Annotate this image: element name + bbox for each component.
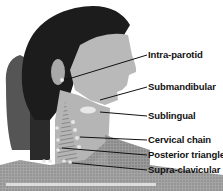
illegible-caption-line: [6, 182, 156, 187]
label-intra-parotid: Intra-parotid: [148, 49, 203, 60]
label-submandibular: Submandibular: [148, 81, 216, 92]
figure-caption: [6, 181, 156, 188]
label-supra-clavicular: Supra-clavicular: [148, 164, 220, 175]
neck-illustration: [0, 0, 223, 191]
label-sublingual: Sublingual: [148, 110, 196, 121]
label-cervical-chain: Cervical chain: [148, 134, 211, 145]
label-posterior-triangle: Posterior triangle: [148, 149, 223, 160]
anatomy-figure: Intra-parotid Submandibular Sublingual C…: [0, 0, 223, 191]
